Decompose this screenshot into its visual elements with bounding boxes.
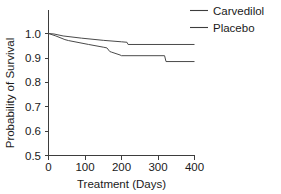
survival-curve-figure: 1.0 0.9 0.8 0.7 0.6 0.5 0 100 200 300 40… xyxy=(0,0,281,194)
y-tick-label-0.8: 0.8 xyxy=(25,76,41,88)
legend-label-placebo: Placebo xyxy=(213,22,255,34)
y-tick-label-0.7: 0.7 xyxy=(25,101,41,113)
placebo-line xyxy=(49,34,195,62)
legend-label-carvedilol: Carvedilol xyxy=(213,5,264,17)
x-tick-marks xyxy=(49,156,195,160)
x-tick-label-100: 100 xyxy=(75,161,94,173)
x-tick-label-0: 0 xyxy=(45,161,51,173)
y-tick-label-1.0: 1.0 xyxy=(25,28,41,40)
series-placebo xyxy=(49,34,195,62)
chart-canvas: 1.0 0.9 0.8 0.7 0.6 0.5 0 100 200 300 40… xyxy=(0,0,281,194)
y-tick-label-0.5: 0.5 xyxy=(25,150,41,162)
carvedilol-line xyxy=(49,34,195,45)
legend: Carvedilol Placebo xyxy=(190,5,264,34)
y-tick-marks xyxy=(45,34,49,156)
y-tick-label-0.9: 0.9 xyxy=(25,52,41,64)
x-axis-title: Treatment (Days) xyxy=(77,178,166,190)
x-tick-label-200: 200 xyxy=(112,161,131,173)
y-tick-labels: 1.0 0.9 0.8 0.7 0.6 0.5 xyxy=(25,28,41,162)
x-tick-label-300: 300 xyxy=(148,161,167,173)
series-carvedilol xyxy=(49,34,195,45)
y-tick-label-0.6: 0.6 xyxy=(25,125,41,137)
x-tick-label-400: 400 xyxy=(185,161,204,173)
x-tick-labels: 0 100 200 300 400 xyxy=(45,161,204,173)
y-axis-title: Probability of Survival xyxy=(4,38,16,149)
